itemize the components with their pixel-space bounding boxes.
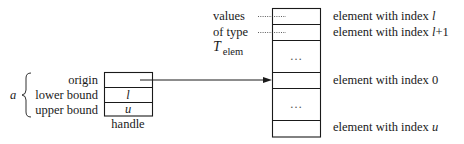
field-label-origin: origin: [30, 73, 98, 87]
handle-caption: handle: [104, 117, 152, 131]
annotation-index: u: [432, 120, 438, 134]
array-label-line1: values: [213, 9, 245, 23]
annotation-prefix: element with index: [333, 25, 432, 39]
array-label-line2: of type: [213, 25, 248, 39]
annotation-prefix: element with index: [333, 120, 432, 134]
annotation-index-l-plus-1: element with index l+1: [333, 25, 449, 39]
cell-ellipsis: …: [272, 49, 320, 63]
annotation-index: l: [432, 9, 435, 23]
annotation-index-l: element with index l: [333, 9, 435, 23]
cell-ellipsis: …: [272, 97, 320, 111]
annotation-prefix: element with index: [333, 73, 432, 87]
array-box: [273, 9, 321, 138]
annotation-prefix: element with index: [333, 9, 432, 23]
type-symbol: T: [213, 39, 221, 54]
annotation-index: 0: [432, 73, 438, 87]
origin-pointer-arrow: [140, 77, 272, 83]
lower-bound-value: l: [104, 88, 152, 102]
upper-bound-value: u: [104, 102, 152, 116]
field-label-upper-bound: upper bound: [20, 103, 98, 117]
annotation-index-u: element with index u: [333, 120, 438, 134]
type-subscript: elem: [223, 46, 243, 57]
annotation-index-0: element with index 0: [333, 73, 438, 87]
annotation-index: l+1: [432, 25, 449, 39]
handle-name: a: [10, 88, 16, 102]
array-label-type: Telem: [213, 40, 243, 55]
field-label-lower-bound: lower bound: [20, 88, 98, 102]
